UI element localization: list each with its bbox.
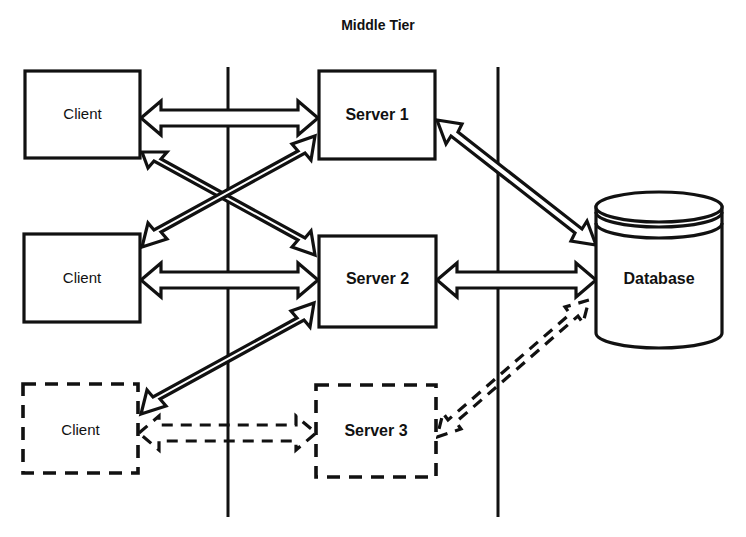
node-server1-label: Server 1: [345, 106, 408, 123]
node-server3-label: Server 3: [344, 422, 407, 439]
architecture-diagram: Middle Tier: [0, 0, 746, 537]
node-server2[interactable]: Server 2: [319, 236, 436, 327]
connection-server3-database: [437, 300, 589, 437]
node-server3[interactable]: Server 3: [316, 385, 436, 477]
node-client1[interactable]: Client: [25, 71, 140, 158]
node-client1-label: Client: [63, 105, 102, 122]
node-server1[interactable]: Server 1: [319, 71, 435, 159]
node-client2-label: Client: [63, 269, 102, 286]
connection-server2-database: [437, 263, 596, 297]
diagram-title: Middle Tier: [341, 17, 415, 33]
connection-server1-database: [437, 120, 596, 245]
node-client3[interactable]: Client: [23, 384, 138, 473]
diagram-canvas: Middle Tier: [0, 0, 746, 537]
node-server2-label: Server 2: [346, 270, 409, 287]
node-client3-label: Client: [61, 421, 100, 438]
node-database-top-ellipse: [596, 192, 722, 222]
node-client2[interactable]: Client: [24, 234, 140, 322]
node-database[interactable]: Database: [596, 192, 722, 348]
node-database-label: Database: [623, 270, 694, 287]
